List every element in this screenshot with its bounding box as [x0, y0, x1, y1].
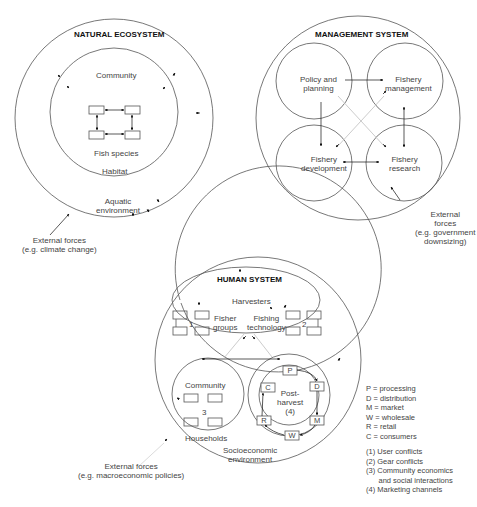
socioeconomic-environment-label: Socioeconomic environment — [223, 446, 277, 464]
conflict-number-1: 1 — [189, 320, 193, 329]
households-number-3: 3 — [202, 408, 206, 417]
management-system-title: MANAGEMENT SYSTEM — [315, 30, 408, 39]
harvesters-label: Harvesters — [232, 297, 271, 306]
post-harvest-label: Post- harvest (4) — [277, 389, 303, 416]
fishery-development-label: Fishery development — [301, 155, 347, 173]
management-external-forces-label: External forces (e.g. government downsiz… — [415, 210, 475, 246]
human-system-outer-circle — [175, 166, 381, 372]
notes-legend: (1) User conflicts (2) Gear conflicts (3… — [366, 447, 453, 495]
human-system-title: HUMAN SYSTEM — [217, 275, 282, 284]
fishery-management-label: Fishery management — [385, 75, 432, 93]
fishery-research-label: Fishery research — [389, 155, 420, 173]
human-external-forces-label: External forces (e.g. macroeconomic poli… — [78, 462, 184, 480]
natural-ecosystem-outer-circle — [15, 19, 213, 217]
human-community-label: Community — [185, 381, 225, 390]
box-d: D — [310, 382, 324, 391]
box-w: W — [285, 431, 299, 440]
abbreviation-legend: P = processing D = distribution M = mark… — [366, 384, 417, 442]
aquatic-environment-label: Aquatic environment — [96, 197, 140, 215]
households-label: Households — [185, 434, 227, 443]
community-label: Community — [96, 71, 136, 80]
natural-ecosystem-title: NATURAL ECOSYSTEM — [74, 30, 164, 39]
fisher-groups-label: Fisher groups — [213, 314, 237, 332]
fish-species-label: Fish species — [94, 149, 138, 158]
box-r: R — [257, 416, 271, 425]
natural-external-forces-label: External forces (e.g. climate change) — [22, 236, 97, 254]
fishing-technology-label: Fishing technology — [247, 314, 286, 332]
box-c: C — [261, 383, 275, 392]
habitat-label: Habitat — [102, 167, 127, 176]
box-m: M — [310, 416, 324, 425]
policy-planning-label: Policy and planning — [300, 75, 337, 93]
box-p: P — [283, 366, 297, 375]
conflict-number-2: 2 — [302, 320, 306, 329]
